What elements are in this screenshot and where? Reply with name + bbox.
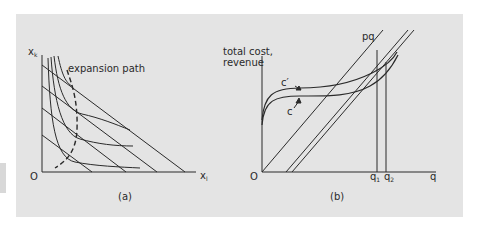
isocost-line-3 (42, 86, 157, 172)
panel-a-labels: xk xl O expansion path (a) (28, 46, 208, 202)
expansion-path-label: expansion path (68, 63, 145, 74)
panel-a-caption: (a) (118, 191, 132, 202)
c-arrowhead (296, 98, 301, 103)
isocost-line-4 (42, 65, 185, 172)
x-axis-label-xl: xl (200, 170, 208, 182)
q1-label: q1 (370, 171, 380, 183)
revenue-line-label: pq (362, 31, 375, 42)
panel-b-origin-label: O (250, 171, 258, 182)
q2-label: q2 (384, 171, 394, 183)
panel-a-origin-label: O (30, 171, 38, 182)
cost-curve-c-label: c (287, 106, 293, 117)
parallel-line-2 (292, 30, 414, 172)
cost-curve-c-prime-label: c′ (281, 77, 289, 88)
x-axis-label-q: q (430, 171, 436, 182)
figure-canvas: xk xl O expansion path (a) total cost, r… (0, 0, 478, 229)
y-axis-label-line2: revenue (223, 57, 264, 68)
panel-b-caption: (b) (330, 191, 344, 202)
y-axis-label-xk: xk (28, 46, 38, 58)
isoquant-1 (48, 58, 140, 168)
revenue-line-pq (262, 30, 383, 172)
panel-b-labels: total cost, revenue O q pq c′ c q1 q2 (b… (223, 31, 436, 202)
panel-b (262, 30, 436, 172)
parallel-line-1 (286, 30, 408, 172)
y-axis-label-line1: total cost, (223, 46, 273, 57)
